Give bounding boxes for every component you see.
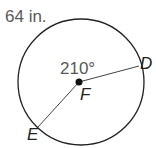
angle-label: 210° <box>60 59 95 79</box>
radius-fe <box>38 82 79 127</box>
arc-length-label: 64 in. <box>5 7 47 27</box>
point-d-label: D <box>140 54 152 74</box>
center-label: F <box>80 85 90 105</box>
point-e-label: E <box>27 125 38 145</box>
